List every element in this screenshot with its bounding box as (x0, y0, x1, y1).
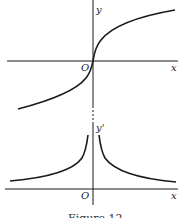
bottom-curve-left (10, 135, 88, 181)
figure-caption: Figure 12 (68, 212, 123, 218)
bottom-curve-right (99, 135, 176, 182)
top-origin-label: O (81, 62, 89, 73)
bottom-origin-label: O (81, 190, 89, 201)
top-x-label: x (171, 62, 177, 73)
top-plot: y O x (7, 0, 178, 109)
bottom-y-label: y' (95, 122, 104, 133)
top-curve (18, 10, 175, 109)
bottom-plot: y' O x (5, 122, 178, 205)
bottom-x-label: x (171, 190, 177, 201)
top-y-label: y (95, 4, 102, 15)
figure-canvas: y O x y' O x Figure 12 (0, 0, 182, 218)
